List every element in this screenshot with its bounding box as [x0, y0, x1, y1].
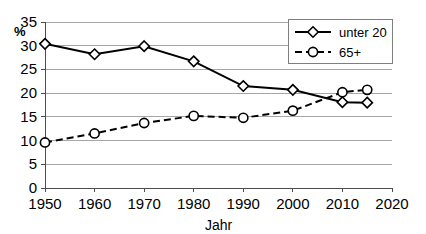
data-point-s1-1980 — [189, 111, 198, 120]
data-point-s1-1950 — [40, 138, 49, 147]
x-tick-label-1990: 1990 — [227, 195, 260, 212]
y-tick-label-15: 15 — [20, 108, 37, 125]
y-tick-label-0: 0 — [29, 179, 37, 196]
x-tick-labels-group: 19501960197019801990200020102020 — [28, 195, 408, 212]
chart-legend: unter 2065+ — [288, 19, 392, 63]
legend-marker-1 — [308, 47, 317, 56]
x-tick-label-1980: 1980 — [177, 195, 210, 212]
data-point-s0-1960 — [89, 49, 99, 59]
x-tick-label-2000: 2000 — [276, 195, 309, 212]
y-tick-labels-group: 05101520253035 — [20, 13, 37, 196]
data-point-s1-1970 — [140, 118, 149, 127]
data-point-s0-1970 — [139, 41, 149, 51]
y-tick-label-20: 20 — [20, 84, 37, 101]
y-axis-unit-label: % — [14, 24, 26, 39]
x-tick-label-1970: 1970 — [127, 195, 160, 212]
data-point-s1-2015 — [363, 85, 372, 94]
y-tick-label-10: 10 — [20, 132, 37, 149]
data-point-s0-2015 — [362, 97, 372, 107]
y-tick-label-25: 25 — [20, 60, 37, 77]
legend-label-0: unter 20 — [339, 25, 387, 40]
y-tick-label-30: 30 — [20, 37, 37, 54]
line-chart: 05101520253035 1950196019701980199020002… — [0, 0, 426, 234]
data-point-s1-1990 — [239, 113, 248, 122]
data-point-s1-2000 — [288, 106, 297, 115]
x-axis-title: Jahr — [205, 217, 233, 233]
data-point-s0-1990 — [238, 81, 248, 91]
legend-label-1: 65+ — [339, 45, 361, 60]
data-point-s1-2010 — [338, 88, 347, 97]
data-point-s0-1950 — [40, 39, 50, 49]
data-point-s1-1960 — [90, 129, 99, 138]
x-tick-label-2020: 2020 — [375, 195, 408, 212]
y-tick-label-5: 5 — [29, 155, 37, 172]
x-tick-label-1950: 1950 — [28, 195, 61, 212]
data-point-s0-1980 — [189, 56, 199, 66]
data-point-s0-2010 — [337, 97, 347, 107]
x-tick-label-1960: 1960 — [78, 195, 111, 212]
chart-canvas: 05101520253035 1950196019701980199020002… — [0, 0, 426, 234]
x-tick-label-2010: 2010 — [326, 195, 359, 212]
